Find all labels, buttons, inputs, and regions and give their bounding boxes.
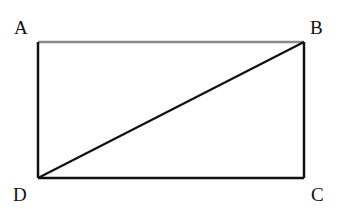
vertex-label-b: B bbox=[310, 17, 323, 38]
vertex-label-d: D bbox=[13, 184, 27, 205]
vertex-label-c: C bbox=[311, 184, 324, 205]
vertex-label-a: A bbox=[14, 17, 28, 38]
rectangle-diagram: A B C D bbox=[0, 0, 342, 209]
